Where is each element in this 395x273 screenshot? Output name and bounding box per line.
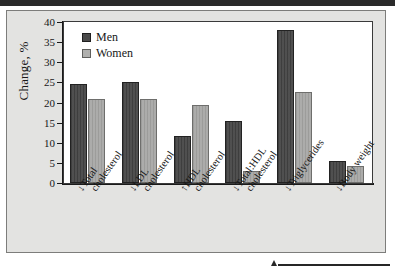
y-axis-ticks: 0510152025303540 bbox=[7, 21, 62, 184]
legend-swatch-women-icon bbox=[82, 49, 91, 58]
y-axis-tick-label: 30 bbox=[44, 57, 55, 68]
y-axis-tick-label: 15 bbox=[44, 118, 55, 129]
legend-item-women: Women bbox=[82, 46, 133, 61]
caption-arrow-icon bbox=[271, 260, 277, 266]
figure-panel: Change, % 0510152025303540 Men Women ↓To… bbox=[6, 10, 386, 253]
top-scan-rule bbox=[0, 0, 395, 6]
x-axis-labels: ↓Totalcholesterol↓LDLcholesterol↑HDLchol… bbox=[63, 187, 373, 253]
y-axis-tick-label: 40 bbox=[44, 17, 55, 28]
legend-item-men: Men bbox=[82, 30, 133, 45]
caption-rule bbox=[278, 264, 390, 266]
legend-label-men: Men bbox=[96, 31, 118, 44]
y-axis-tick-label: 10 bbox=[44, 138, 55, 149]
bar-group bbox=[322, 22, 374, 183]
y-axis-tick-label: 0 bbox=[50, 178, 56, 189]
legend-swatch-men-icon bbox=[82, 33, 91, 42]
bar-men bbox=[122, 82, 139, 183]
bar-men bbox=[70, 84, 87, 183]
bar-men bbox=[277, 30, 294, 183]
y-axis-tick-label: 25 bbox=[44, 77, 55, 88]
legend-label-women: Women bbox=[96, 47, 133, 60]
y-axis-tick-label: 35 bbox=[44, 37, 55, 48]
legend: Men Women bbox=[82, 30, 133, 62]
y-axis-tick-label: 20 bbox=[44, 98, 55, 109]
y-axis-tick-label: 5 bbox=[50, 158, 56, 169]
